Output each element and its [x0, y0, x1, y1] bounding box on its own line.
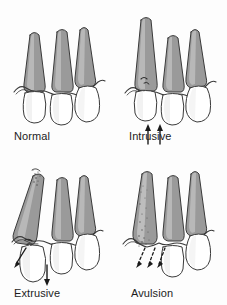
- panel-label-extrusive: Extrusive: [14, 287, 60, 299]
- panel-label-avulsion: Avulsion: [131, 287, 173, 299]
- arrow-dashed-1: [136, 248, 145, 268]
- extrusive-illustration: [0, 152, 113, 304]
- panel-avulsion: [113, 152, 226, 304]
- avulsion-illustration: [113, 152, 226, 304]
- panel-label-intrusive: Intrusive: [129, 130, 171, 142]
- panel-label-normal: Normal: [14, 130, 50, 142]
- panel-extrusive: [0, 152, 113, 304]
- dental-trauma-figure: Normal Intrusive Extrusive Avulsion: [0, 0, 227, 305]
- arrow-dashed-2: [147, 248, 155, 268]
